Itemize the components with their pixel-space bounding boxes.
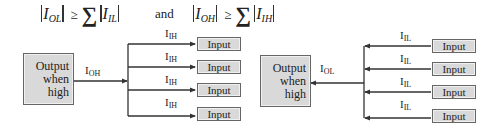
current-label-iil: IIL bbox=[400, 98, 411, 112]
current-label-iol: IOL bbox=[320, 62, 334, 76]
input-box: Input bbox=[432, 85, 476, 99]
output-box-left: Output when high bbox=[23, 53, 74, 105]
input-box: Input bbox=[432, 62, 476, 76]
current-label-iih: IIH bbox=[165, 73, 177, 87]
current-subscript: IL bbox=[404, 80, 412, 89]
current-label-ioh: IOH bbox=[85, 64, 100, 78]
output-box-right: Output when high bbox=[260, 55, 311, 107]
current-subscript: IL bbox=[404, 57, 412, 66]
current-label-iih: IIH bbox=[165, 96, 177, 110]
input-box: Input bbox=[197, 60, 241, 74]
current-subscript: IH bbox=[169, 78, 177, 87]
current-subscript: IH bbox=[169, 32, 177, 41]
current-subscript: IH bbox=[169, 101, 177, 110]
current-subscript: OH bbox=[89, 69, 101, 78]
current-label-iih: IIH bbox=[165, 27, 177, 41]
current-label-iil: IIL bbox=[400, 29, 411, 43]
output-label-line: high bbox=[24, 86, 69, 99]
input-box: Input bbox=[197, 107, 241, 121]
input-box: Input bbox=[197, 83, 241, 97]
current-subscript: IL bbox=[404, 34, 412, 43]
current-subscript: OL bbox=[324, 67, 335, 76]
input-box: Input bbox=[197, 37, 241, 51]
current-label-iil: IIL bbox=[400, 52, 411, 66]
current-subscript: IL bbox=[404, 103, 412, 112]
input-box: Input bbox=[432, 109, 476, 123]
output-label-line: high bbox=[261, 88, 306, 101]
input-box: Input bbox=[432, 39, 476, 53]
current-subscript: IH bbox=[169, 55, 177, 64]
current-label-iil: IIL bbox=[400, 75, 411, 89]
current-label-iih: IIH bbox=[165, 50, 177, 64]
wiring bbox=[0, 0, 497, 132]
